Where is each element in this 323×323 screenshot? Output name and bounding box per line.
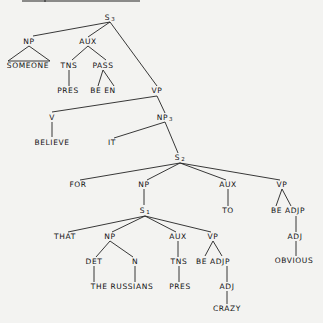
- node-aux-low: AUX: [169, 233, 187, 241]
- node-vp-low: VP: [208, 233, 219, 241]
- node-someone: SOMEONE: [7, 62, 49, 70]
- node-s2: S2: [175, 154, 185, 163]
- tree-branch: [80, 163, 180, 180]
- node-label: BE ADJP: [196, 257, 230, 266]
- node-label: NP: [138, 180, 149, 189]
- node-label: N: [132, 257, 138, 266]
- node-subscript: 2: [181, 156, 185, 162]
- node-for: FOR: [69, 181, 86, 189]
- tree-branch: [114, 122, 165, 138]
- node-label: ADJ: [220, 282, 235, 291]
- node-pres-low: PRES: [169, 283, 191, 291]
- node-label: VP: [152, 86, 163, 95]
- node-subscript: 3: [111, 16, 115, 22]
- tree-branch: [112, 216, 145, 232]
- node-label: SOMEONE: [7, 61, 49, 70]
- node-n: N: [132, 258, 138, 266]
- node-label: DET: [86, 257, 103, 266]
- node-subscript: 3: [169, 116, 173, 122]
- node-vp-obv: VP: [277, 181, 288, 189]
- node-label: AUX: [79, 37, 97, 46]
- node-that: THAT: [54, 233, 76, 241]
- tree-branch: [110, 22, 157, 86]
- node-adj-r: ADJ: [288, 233, 303, 241]
- node-label: AUX: [169, 232, 187, 241]
- syntax-tree-diagram: S3NPAUXSOMEONETNSPASSPRESBE ENVPVNP3BELI…: [0, 0, 323, 323]
- node-the-russians: THE RUSSIANS: [91, 283, 153, 291]
- node-vp-top: VP: [152, 87, 163, 95]
- node-be-adjp-r: BE ADJP: [271, 207, 305, 215]
- node-np-s1: NP: [138, 181, 149, 189]
- node-label: BE ADJP: [271, 206, 305, 215]
- tree-branch: [110, 241, 133, 257]
- node-tns-top: TNS: [61, 62, 78, 70]
- node-np-rus: NP: [104, 233, 115, 241]
- node-label: CRAZY: [213, 304, 241, 313]
- node-label: S: [175, 153, 180, 162]
- node-label: NP: [23, 37, 34, 46]
- node-label: IT: [108, 138, 116, 147]
- tree-branch: [276, 189, 282, 206]
- node-aux-to: AUX: [219, 181, 237, 189]
- tree-branch: [103, 70, 114, 86]
- tree-branch: [29, 46, 50, 61]
- node-aux-top: AUX: [79, 38, 97, 46]
- tree-branch: [180, 163, 226, 180]
- tree-branch: [52, 96, 157, 112]
- tree-edges: [0, 0, 323, 323]
- node-label: PASS: [92, 61, 113, 70]
- node-label: BE EN: [90, 86, 116, 95]
- tree-branch: [145, 216, 176, 232]
- node-obvious: OBVIOUS: [275, 257, 314, 265]
- node-label: V: [49, 113, 55, 122]
- tree-branch: [88, 46, 106, 60]
- node-label: NP: [104, 232, 115, 241]
- node-label: PRES: [57, 86, 79, 95]
- node-label: TNS: [171, 257, 188, 266]
- tree-branch: [282, 189, 291, 206]
- node-label: VP: [277, 180, 288, 189]
- node-label: TNS: [61, 61, 78, 70]
- node-v: V: [49, 114, 55, 122]
- node-crazy: CRAZY: [213, 305, 241, 313]
- tree-branch: [157, 96, 165, 113]
- node-det: DET: [86, 258, 103, 266]
- node-s3: S3: [105, 14, 115, 23]
- tree-branch: [145, 216, 211, 232]
- node-label: AUX: [219, 180, 237, 189]
- node-subscript: 1: [146, 209, 150, 215]
- node-label: BELIEVE: [34, 138, 69, 147]
- node-label: NP: [157, 113, 168, 122]
- tree-branch: [165, 122, 178, 153]
- node-label: TO: [222, 206, 234, 215]
- node-label: OBVIOUS: [275, 256, 314, 265]
- node-label: ADJ: [288, 232, 303, 241]
- tree-branch: [33, 22, 110, 36]
- node-believe: BELIEVE: [34, 139, 69, 147]
- node-np-someone: NP: [23, 38, 34, 46]
- node-np3: NP3: [157, 114, 173, 123]
- node-pres-top: PRES: [57, 87, 79, 95]
- tree-branch: [213, 241, 222, 256]
- node-label: FOR: [69, 180, 86, 189]
- tree-branch: [180, 163, 280, 180]
- node-label: THAT: [54, 232, 76, 241]
- node-label: S: [140, 206, 145, 215]
- tree-branch: [8, 46, 29, 61]
- node-label: VP: [208, 232, 219, 241]
- node-label: PRES: [169, 282, 191, 291]
- node-label: S: [105, 13, 110, 22]
- node-pass: PASS: [92, 62, 113, 70]
- tree-branch: [96, 241, 110, 257]
- tree-branch: [68, 216, 145, 232]
- tree-branch: [205, 241, 213, 256]
- node-be-en: BE EN: [90, 87, 116, 95]
- node-adj-l: ADJ: [220, 283, 235, 291]
- node-tns-low: TNS: [171, 258, 188, 266]
- node-s1: S1: [140, 207, 150, 216]
- tree-branch: [72, 46, 88, 60]
- node-label: THE RUSSIANS: [91, 282, 153, 291]
- tree-branch: [98, 70, 103, 86]
- node-be-adjp-l: BE ADJP: [196, 258, 230, 266]
- node-to: TO: [222, 207, 234, 215]
